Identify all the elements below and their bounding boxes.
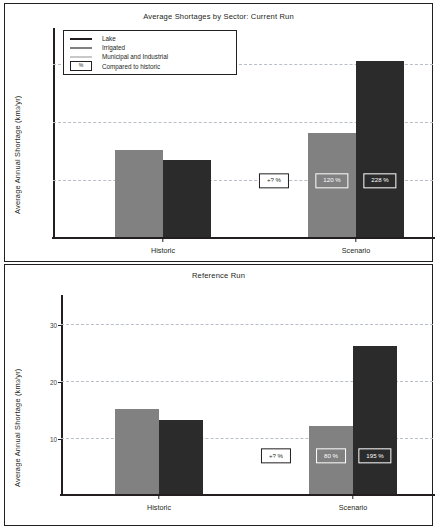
x-axis-line-current-run (52, 237, 435, 239)
y-axis-label-reference-run: Average Annual Shortage (km3/yr) (13, 315, 22, 487)
x-tick-historic-current-run (162, 238, 163, 242)
legend-item-municipal-industrial: Municipal and Industrial (68, 52, 231, 61)
y-tick-label-10: 10 (50, 436, 57, 443)
y-axis-label-current-run: Average Annual Shortage (km3/yr) (13, 42, 22, 214)
x-label-historic-current-run: Historic (151, 246, 175, 255)
callout-historic-change-current-run: +? % (259, 173, 289, 188)
chart-title-reference-run: Reference Run (5, 271, 432, 280)
chart-panel-current-run: Average Shortages by Sector: Current Run… (4, 3, 433, 262)
y-axis-line-reference-run (61, 295, 63, 496)
x-tick-scenario-reference-run (352, 495, 353, 499)
gridline-30-reference-run: 30 (61, 324, 433, 325)
callout-scenario-lake-reference-run: 195 % (358, 449, 391, 464)
x-tick-historic-reference-run (158, 495, 159, 499)
legend-item-irrigated: Irrigated (68, 43, 231, 52)
legend-item-lake: Lake (68, 34, 231, 43)
y-axis-label-exponent: 3 (15, 107, 21, 110)
bar-historic-lake-reference-run (159, 420, 203, 494)
callout-scenario-irrigated-reference-run: 80 % (316, 449, 346, 464)
y-axis-label-text: Average Annual Shortage (km (13, 110, 22, 214)
y-axis-label-tail: /yr) (13, 95, 22, 106)
legend-label-municipal-industrial: Municipal and Industrial (102, 53, 168, 60)
chart-title-current-run: Average Shortages by Sector: Current Run (5, 12, 432, 21)
y-tick-label-30: 30 (50, 322, 57, 329)
bar-historic-irrigated-current-run (115, 150, 163, 237)
y-tick-label-20: 20 (50, 379, 57, 386)
legend-current-run: Lake Irrigated Municipal and Industrial (63, 30, 237, 75)
x-label-historic-reference-run: Historic (147, 503, 171, 512)
x-label-scenario-current-run: Scenario (342, 246, 370, 255)
bar-scenario-lake-reference-run (353, 346, 397, 494)
x-axis-line-reference-run (60, 494, 435, 496)
figure-container: Average Shortages by Sector: Current Run… (0, 0, 437, 531)
legend-swatch-irrigated-icon (68, 47, 94, 49)
callout-scenario-irrigated-current-run: 120 % (315, 173, 348, 188)
legend-label-irrigated: Irrigated (102, 44, 125, 51)
callout-scenario-lake-current-run: 228 % (363, 173, 396, 188)
bar-historic-irrigated-reference-run (115, 409, 159, 494)
chart-panel-reference-run: Reference Run Average Annual Shortage (k… (4, 264, 433, 526)
legend-swatch-municipal-icon (68, 56, 94, 58)
y-axis-label-exponent-ref: 3 (15, 380, 21, 383)
x-label-scenario-reference-run: Scenario (339, 503, 367, 512)
legend-swatch-lake-icon (68, 38, 94, 40)
bar-scenario-lake-current-run (356, 61, 404, 238)
legend-label-compared-to-historic: Compared to historic (102, 63, 160, 70)
y-axis-label-tail-ref: /yr) (13, 368, 22, 379)
plot-area-reference-run: 10 20 30 +? % 80 % 195 % Historic (61, 295, 429, 496)
plot-area-current-run: +? % 120 % 228 % Historic Scenario Lake (53, 28, 429, 239)
bar-historic-lake-current-run (163, 160, 211, 237)
callout-historic-change-reference-run: +? % (261, 449, 291, 464)
y-axis-label-text-ref: Average Annual Shortage (km (13, 383, 22, 487)
legend-swatch-percent-box-icon: % (68, 61, 94, 71)
legend-item-compared-to-historic: % Compared to historic (68, 62, 231, 71)
legend-swatch-percent-text: % (70, 61, 92, 71)
y-axis-line-current-run (53, 28, 55, 239)
x-tick-scenario-current-run (355, 238, 356, 242)
legend-label-lake: Lake (102, 35, 116, 42)
